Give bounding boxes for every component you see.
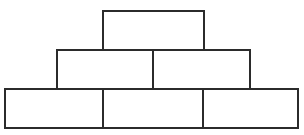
brick-pyramid-figure xyxy=(0,0,304,135)
brick-top-1 xyxy=(103,11,204,50)
middle-row xyxy=(57,50,250,89)
brick-middle-2 xyxy=(153,50,250,89)
top-row xyxy=(103,11,204,50)
brick-group xyxy=(5,11,298,128)
brick-pyramid-svg xyxy=(0,0,304,135)
brick-middle-1 xyxy=(57,50,153,89)
brick-bottom-1 xyxy=(5,89,103,128)
bottom-row xyxy=(5,89,298,128)
brick-bottom-3 xyxy=(203,89,298,128)
brick-bottom-2 xyxy=(103,89,203,128)
